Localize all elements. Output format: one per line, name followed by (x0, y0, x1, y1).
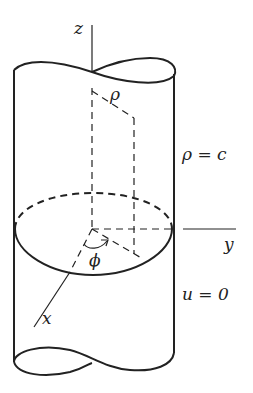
phi-angle-arc (84, 241, 107, 248)
cylinder-diagram (0, 0, 253, 393)
bottom-break-contour (14, 348, 174, 375)
ellipse-back-dashed (15, 193, 172, 229)
x-axis-label: x (42, 310, 52, 327)
boundary-condition-label: u = 0 (182, 286, 229, 303)
x-axis (34, 272, 70, 327)
z-axis-label: z (74, 20, 83, 37)
rho-label: ρ (110, 86, 120, 103)
top-break-contour (14, 58, 175, 83)
y-axis-label: y (224, 236, 234, 253)
boundary-surface-label: ρ = c (182, 146, 227, 163)
phi-label: ϕ (89, 252, 101, 269)
